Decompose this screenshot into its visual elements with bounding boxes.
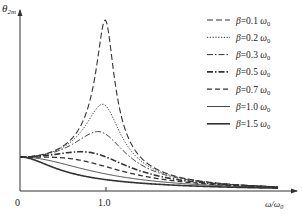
legend-item: β=0.5 ω0 [207, 67, 270, 78]
legend-label: β=0.5 ω0 [235, 67, 270, 78]
legend-item: β=1.5 ω0 [207, 119, 270, 130]
legend-item: β=1.0 ω0 [207, 102, 270, 113]
resonance-chart: θ2m ω/ω0 0 1.0 β=0.1 ω0β=0.2 ω0β=0.3 ω0β… [0, 0, 302, 219]
legend-label: β=0.7 ω0 [235, 85, 270, 96]
legend-item: β=0.7 ω0 [207, 85, 270, 96]
y-axis-label: θ2m [2, 2, 16, 16]
curve-beta-1_5 [20, 157, 278, 188]
legend: β=0.1 ω0β=0.2 ω0β=0.3 ω0β=0.5 ω0β=0.7 ω0… [207, 16, 270, 131]
x-tick-label-0: 0 [15, 197, 20, 208]
legend-label: β=1.0 ω0 [235, 102, 270, 113]
legend-label: β=1.5 ω0 [235, 119, 270, 130]
legend-label: β=0.2 ω0 [235, 33, 270, 44]
legend-item: β=0.1 ω0 [207, 16, 270, 27]
legend-item: β=0.2 ω0 [207, 33, 270, 44]
curve-beta-0_3 [20, 132, 278, 187]
legend-label: β=0.1 ω0 [235, 16, 270, 27]
legend-item: β=0.3 ω0 [207, 50, 270, 61]
x-tick-label-1: 1.0 [98, 197, 111, 208]
curve-beta-0_2 [20, 104, 278, 187]
x-axis-label: ω/ω0 [265, 199, 283, 210]
curve-beta-0_7 [20, 157, 278, 187]
legend-label: β=0.3 ω0 [235, 50, 270, 61]
